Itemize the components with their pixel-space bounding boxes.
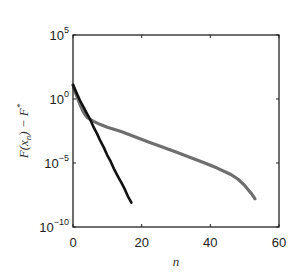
plot-area: [73, 85, 255, 203]
x-axis-label: n: [173, 254, 180, 269]
y-axis-ticks: 10510010−510−10: [39, 25, 279, 235]
y-tick-label: 10−5: [44, 153, 69, 171]
y-tick-label: 100: [50, 89, 69, 107]
x-tick-label: 40: [203, 235, 217, 250]
svg-text:F(xn) − F*: F(xn) − F*: [15, 103, 33, 159]
chart: 0204060 10510010−510−10 n F(xn) − F*: [0, 0, 295, 279]
x-tick-label: 60: [272, 235, 286, 250]
x-tick-label: 20: [134, 235, 148, 250]
y-tick-label: 10−10: [39, 217, 69, 235]
y-tick-label: 105: [50, 25, 69, 43]
axes-frame: [73, 35, 279, 227]
series-line-black: [73, 85, 131, 203]
x-tick-label: 0: [69, 235, 76, 250]
y-axis-label: F(xn) − F*: [15, 103, 33, 159]
